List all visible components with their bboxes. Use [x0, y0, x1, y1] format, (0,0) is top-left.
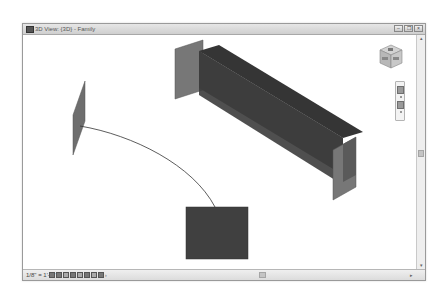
- zoom-dropdown-icon[interactable]: [400, 111, 402, 113]
- end-plane-bottom-right-overlap: [343, 137, 356, 182]
- swept-path-curve[interactable]: [80, 126, 215, 207]
- view-icon: [26, 26, 34, 33]
- model-graphics: [23, 35, 418, 271]
- crop-view-icon[interactable]: [77, 272, 83, 278]
- title-bar[interactable]: 3D View: {3D} - Family – ❐ ×: [23, 24, 425, 35]
- 3d-view-window: 3D View: {3D} - Family – ❐ ×: [22, 23, 426, 281]
- view-tools: ›: [49, 272, 107, 278]
- steering-wheel-icon[interactable]: [397, 86, 404, 94]
- visual-style-icon[interactable]: [56, 272, 62, 278]
- vertical-scroll-thumb[interactable]: [418, 150, 424, 157]
- sun-path-icon[interactable]: [63, 272, 69, 278]
- model-canvas[interactable]: [23, 35, 416, 269]
- detail-level-icon[interactable]: [49, 272, 55, 278]
- vertical-scrollbar[interactable]: ▴ ▾: [416, 35, 425, 269]
- scroll-down-icon[interactable]: ▾: [418, 263, 424, 268]
- reveal-hidden-icon[interactable]: [98, 272, 104, 278]
- temporary-hide-icon[interactable]: [91, 272, 97, 278]
- end-plane-top-left[interactable]: [175, 40, 203, 99]
- scroll-right-icon[interactable]: ▸: [410, 271, 413, 279]
- show-crop-icon[interactable]: [84, 272, 90, 278]
- profile-square[interactable]: [186, 207, 248, 259]
- reference-plane-left[interactable]: [73, 81, 85, 155]
- view-control-bar: 1/8" = 1'-0" › ▸: [23, 269, 425, 280]
- zoom-icon[interactable]: [397, 101, 404, 109]
- horizontal-scroll-thumb[interactable]: [259, 272, 266, 278]
- window-controls: – ❐ ×: [394, 25, 423, 32]
- window-title: 3D View: {3D} - Family: [35, 25, 95, 33]
- shadows-icon[interactable]: [70, 272, 76, 278]
- close-button[interactable]: ×: [414, 25, 423, 32]
- navigation-bar: [395, 81, 405, 121]
- viewcube-icon[interactable]: [378, 43, 404, 71]
- minimize-button[interactable]: –: [394, 25, 403, 32]
- more-icon[interactable]: ›: [105, 272, 107, 278]
- scroll-up-icon[interactable]: ▴: [418, 36, 424, 41]
- nav-dropdown-icon[interactable]: [400, 96, 402, 98]
- restore-button[interactable]: ❐: [404, 25, 413, 32]
